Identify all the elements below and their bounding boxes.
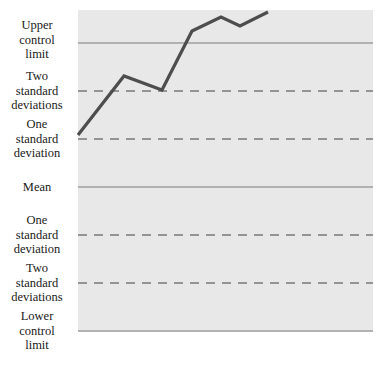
axis-label-line: deviations	[0, 290, 74, 305]
axis-label-line: Two	[0, 261, 74, 276]
control-chart-figure: Upper control limit Two standard deviati…	[0, 0, 389, 368]
axis-label-line: Two	[0, 69, 74, 84]
axis-label-line: standard	[0, 132, 74, 147]
axis-label-line: deviation	[0, 242, 74, 257]
axis-label-line: limit	[0, 47, 74, 62]
axis-label-line: One	[0, 213, 74, 228]
axis-label-line: Mean	[0, 180, 74, 195]
axis-label-mean: Mean	[0, 180, 74, 195]
axis-label-line: limit	[0, 338, 74, 353]
axis-label-line: One	[0, 117, 74, 132]
axis-label-line: standard	[0, 276, 74, 291]
axis-label-line: Upper	[0, 18, 74, 33]
axis-label-lower-one-sigma: One standard deviation	[0, 213, 74, 257]
axis-label-line: control	[0, 33, 74, 48]
axis-label-line: deviation	[0, 146, 74, 161]
axis-label-line: standard	[0, 84, 74, 99]
axis-label-upper-control-limit: Upper control limit	[0, 18, 74, 62]
axis-label-line: control	[0, 324, 74, 339]
axis-label-line: deviations	[0, 98, 74, 113]
y-axis-label-group: Upper control limit Two standard deviati…	[0, 0, 78, 368]
axis-label-upper-two-sigma: Two standard deviations	[0, 69, 74, 113]
axis-label-lower-two-sigma: Two standard deviations	[0, 261, 74, 305]
axis-label-line: Lower	[0, 309, 74, 324]
axis-label-lower-control-limit: Lower control limit	[0, 309, 74, 353]
axis-label-line: standard	[0, 228, 74, 243]
data-series-line	[78, 12, 268, 135]
axis-label-upper-one-sigma: One standard deviation	[0, 117, 74, 161]
